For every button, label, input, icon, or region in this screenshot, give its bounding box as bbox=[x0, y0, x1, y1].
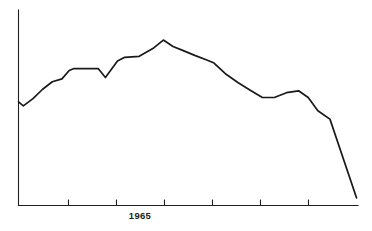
data-line-series-1 bbox=[19, 40, 357, 198]
x-tick-label-1965: 1965 bbox=[129, 210, 152, 221]
line-chart: 1965 bbox=[0, 0, 372, 231]
series-group bbox=[19, 40, 357, 198]
axes-group bbox=[19, 10, 359, 206]
chart-container: 1965 bbox=[0, 0, 372, 231]
x-axis-ticks bbox=[69, 200, 309, 206]
